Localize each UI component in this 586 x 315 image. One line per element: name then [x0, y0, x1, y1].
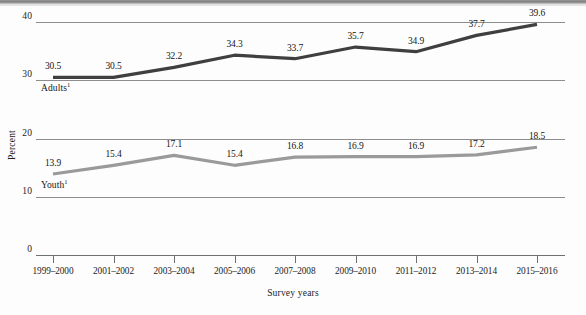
data-label-youth-3: 15.4 — [215, 149, 255, 159]
data-label-youth-0: 13.9 — [33, 158, 73, 168]
data-label-adults-5: 35.7 — [336, 31, 376, 41]
plot-area: Percent 010203040 1999–20002001–20022003… — [0, 0, 586, 315]
data-label-adults-1: 30.5 — [94, 61, 134, 71]
data-label-adults-7: 37.7 — [457, 19, 497, 29]
data-label-adults-2: 32.2 — [154, 51, 194, 61]
series-label-youth: Youth1 — [41, 178, 68, 190]
data-label-youth-2: 17.1 — [154, 139, 194, 149]
data-label-youth-6: 16.9 — [396, 141, 436, 151]
series-label-adults: Adults1 — [41, 81, 70, 93]
data-label-adults-3: 34.3 — [215, 39, 255, 49]
data-label-adults-6: 34.9 — [396, 36, 436, 46]
x-axis-title: Survey years — [0, 288, 586, 298]
data-label-adults-8: 39.6 — [517, 8, 557, 18]
data-label-youth-7: 17.2 — [457, 139, 497, 149]
data-label-youth-4: 16.8 — [275, 141, 315, 151]
data-label-adults-0: 30.5 — [33, 61, 73, 71]
data-label-youth-1: 15.4 — [94, 149, 134, 159]
data-label-youth-5: 16.9 — [336, 141, 376, 151]
chart-figure: Percent 010203040 1999–20002001–20022003… — [0, 0, 586, 315]
data-label-adults-4: 33.7 — [275, 43, 315, 53]
data-label-youth-8: 18.5 — [517, 131, 557, 141]
